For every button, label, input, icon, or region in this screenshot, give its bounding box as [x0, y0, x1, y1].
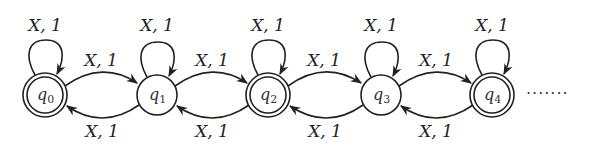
state-q2: q2 [246, 73, 290, 117]
self-loop-q2 [252, 40, 285, 75]
backward-label-q3-q2: X, 1 [306, 121, 342, 141]
forward-label-q3-q4: X, 1 [417, 50, 453, 70]
backward-label-q4-q3: X, 1 [417, 121, 453, 141]
self-loop-q0 [29, 40, 62, 75]
self-loop-label-q4: X, 1 [473, 15, 509, 35]
backward-label-q2-q1: X, 1 [193, 121, 229, 141]
self-loop-q4 [476, 40, 509, 75]
edge-q1-q2 [175, 72, 247, 86]
automaton-diagram: q0 q1 q2 q3 q4 X, 1 X, 1 X, 1 X, 1 X, 1 … [0, 0, 600, 156]
self-loop-label-q3: X, 1 [362, 15, 398, 35]
edge-q3-q2 [290, 105, 363, 118]
continuation-ellipsis: ······· [526, 84, 569, 103]
state-q4: q4 [470, 73, 514, 117]
self-loop-q3 [365, 42, 398, 77]
backward-label-q1-q0: X, 1 [83, 121, 119, 141]
edge-q0-q1 [65, 72, 137, 86]
forward-label-q1-q2: X, 1 [193, 50, 229, 70]
self-loop-label-q1: X, 1 [138, 15, 174, 35]
state-q1: q1 [137, 75, 177, 115]
edge-q1-q0 [67, 105, 139, 118]
edge-q4-q3 [401, 105, 473, 118]
self-loop-label-q2: X, 1 [249, 15, 285, 35]
edge-q2-q1 [177, 105, 249, 118]
self-loop-q1 [141, 42, 174, 77]
edge-q3-q4 [399, 72, 471, 86]
state-q3: q3 [361, 75, 401, 115]
edge-q2-q3 [288, 72, 361, 86]
forward-label-q2-q3: X, 1 [305, 50, 341, 70]
forward-label-q0-q1: X, 1 [82, 50, 118, 70]
state-q0: q0 [23, 73, 67, 117]
self-loop-label-q0: X, 1 [26, 15, 62, 35]
